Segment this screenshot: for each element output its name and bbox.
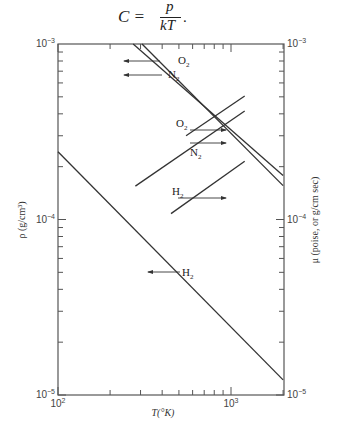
line-n2-density — [142, 44, 283, 186]
series-annotations: O2N2H2O2N2H2 — [124, 54, 226, 281]
y-axis-right-title: μ (poise, or g/cm sec) — [309, 177, 321, 264]
y-axis-left-title: ρ (g/cm³) — [16, 201, 28, 238]
axis-ticks — [58, 44, 284, 395]
y-tick-label-right: 10−3 — [287, 37, 306, 49]
x-tick-label: 103 — [223, 397, 238, 409]
y-tick-label-left: 10−4 — [36, 213, 55, 225]
axis-tick-labels: 10−310−410−510−310−410−5102103 — [36, 37, 306, 409]
plot-border — [58, 44, 284, 395]
y-tick-label-left: 10−3 — [36, 37, 55, 49]
y-tick-label-right: 10−5 — [287, 388, 306, 400]
y-tick-label-right: 10−4 — [287, 213, 306, 225]
data-lines — [58, 44, 283, 380]
line-h2-viscosity — [171, 161, 245, 213]
x-tick-label: 102 — [50, 397, 65, 409]
label-o2-density: O2 — [178, 54, 190, 69]
label-n2-viscosity: N2 — [190, 146, 202, 161]
label-o2-viscosity: O2 — [176, 117, 188, 132]
x-axis-title: T(°K) — [152, 407, 176, 419]
chart-density-viscosity-vs-temperature: 10−310−410−510−310−410−5102103 O2N2H2O2N… — [0, 0, 341, 433]
line-h2-density — [58, 152, 283, 380]
plot-frame — [58, 44, 284, 395]
label-n2-density: N2 — [168, 68, 180, 83]
